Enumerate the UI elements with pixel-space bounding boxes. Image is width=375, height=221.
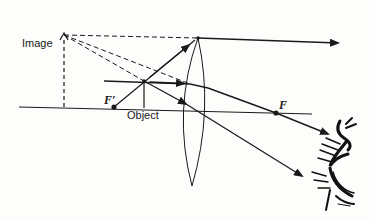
- converging-lens: [183, 38, 204, 186]
- ray-through-far-focal-2: [208, 88, 276, 113]
- ray-through-center-2: [186, 104, 302, 176]
- dashed-ray-extension-lower: [64, 35, 144, 81]
- ray-to-eye-upper: [276, 113, 328, 134]
- ray-diagram-svg: [0, 0, 375, 221]
- dashed-ray-extension-top: [64, 35, 198, 38]
- eye-icon: [312, 118, 356, 210]
- ray-diagram: Image Object F′ F: [0, 0, 375, 221]
- ray-through-focal-point-arrow: [150, 45, 189, 77]
- ray-parallel-emergent: [198, 38, 338, 43]
- ray-through-center: [144, 81, 186, 104]
- object-label: Object: [127, 110, 159, 121]
- focal-point-near-label: F′: [104, 94, 115, 106]
- focal-point-far-label: F: [279, 99, 287, 111]
- focal-point-far: [273, 110, 278, 115]
- image-label: Image: [22, 38, 53, 49]
- ray-through-far-focal: [190, 84, 208, 88]
